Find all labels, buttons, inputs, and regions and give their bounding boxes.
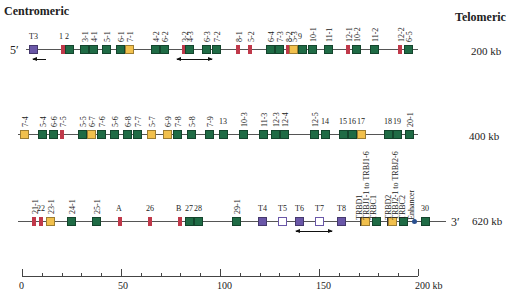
gene-functional-V	[173, 130, 182, 139]
centromeric-label: Centromeric	[4, 4, 69, 19]
arrowhead-icon	[176, 57, 181, 61]
gene-label: 24-1	[68, 199, 77, 214]
gene-label: 7-1	[126, 31, 135, 42]
gene-label: 7-8	[174, 116, 183, 127]
minor-tick	[141, 273, 142, 276]
gene-label: 30	[421, 204, 429, 213]
gene-label: 6-2	[161, 31, 170, 42]
gene-functional-V	[348, 130, 357, 139]
scale-axis	[22, 276, 418, 277]
gene-label: 17	[357, 117, 365, 126]
gene-label: 12-4	[281, 112, 290, 127]
orientation-arrow	[296, 231, 332, 232]
gene-functional-V	[405, 130, 414, 139]
gene-pseudogene	[32, 217, 36, 226]
gene-label: 6-3	[203, 31, 212, 42]
gene-label: 29-1	[233, 199, 242, 214]
minor-tick	[101, 273, 102, 276]
gene-label: 19	[393, 117, 401, 126]
gene-label: 11-2	[371, 28, 380, 42]
gene-functional-V	[123, 130, 132, 139]
gene-label: 1	[59, 32, 63, 41]
trb-segment-label: TRBC2	[398, 195, 407, 220]
minor-tick	[339, 273, 340, 276]
gene-label: 11-1	[325, 28, 334, 42]
gene-label: 7-9	[206, 116, 215, 127]
minor-tick	[378, 273, 379, 276]
gene-label: 9	[298, 32, 302, 41]
gene-pseudogene	[236, 45, 240, 54]
gene-functional-V	[239, 130, 248, 139]
gene-functional-V	[308, 45, 317, 54]
gene-label: 12-5	[311, 112, 320, 127]
gene-functional-V	[89, 45, 98, 54]
gene-label: T6	[295, 204, 304, 213]
gene-functional-V	[102, 45, 111, 54]
major-tick	[121, 269, 122, 276]
arrowhead-icon	[208, 57, 213, 61]
gene-pseudogene	[178, 217, 182, 226]
gene-functional-V	[339, 130, 348, 139]
gene-label: 7-4	[21, 116, 30, 127]
gene-label: 6-6	[50, 116, 59, 127]
arrowhead-icon	[32, 57, 37, 61]
gene-functional-V	[232, 217, 241, 226]
scale-tick-label: 0	[19, 280, 24, 291]
gene-label: T8	[337, 204, 346, 213]
gene-label: 6-7	[88, 116, 97, 127]
gene-functional-V	[298, 45, 307, 54]
gene-label: 13	[219, 117, 227, 126]
gene-trypsinogen	[337, 217, 346, 226]
gene-pseudogene	[398, 45, 402, 54]
gene-functional-V	[65, 45, 74, 54]
gene-label: 6-5	[405, 31, 414, 42]
gene-label: 5-1	[103, 31, 112, 42]
gene-trypsinogen-pseudo	[315, 217, 324, 226]
gene-label: 26	[146, 204, 154, 213]
gene-label: 12-3	[272, 112, 281, 127]
gene-orf	[357, 130, 366, 139]
gene-functional-V	[421, 217, 430, 226]
gene-pseudogene	[346, 45, 350, 54]
gene-trypsinogen	[295, 217, 304, 226]
gene-label: 14	[321, 117, 329, 126]
gene-functional-V	[271, 130, 280, 139]
minor-tick	[42, 273, 43, 276]
row1-kb-label: 200 kb	[471, 45, 501, 57]
gene-label: 25-1	[93, 199, 102, 214]
minor-tick	[299, 273, 300, 276]
gene-pseudogene	[60, 130, 64, 139]
gene-label: 16	[348, 117, 356, 126]
gene-functional-V	[275, 45, 284, 54]
gene-functional-V	[187, 130, 196, 139]
major-tick	[22, 269, 23, 276]
gene-label: 7-6	[98, 116, 107, 127]
gene-orf	[87, 130, 96, 139]
gene-label: 15	[339, 117, 347, 126]
gene-orf	[163, 130, 172, 139]
gene-label: 5-6	[111, 116, 120, 127]
gene-functional-V	[280, 130, 289, 139]
gene-label: 10-2	[353, 27, 362, 42]
gene-orf	[46, 217, 55, 226]
gene-label: 7-2	[213, 31, 222, 42]
gene-pseudogene	[118, 217, 122, 226]
gene-orf	[289, 45, 298, 54]
minor-tick	[161, 273, 162, 276]
gene-functional-V	[205, 130, 214, 139]
gene-functional-V	[38, 130, 47, 139]
gene-functional-V	[185, 217, 194, 226]
gene-label: 2	[65, 32, 69, 41]
gene-functional-V	[310, 130, 319, 139]
major-tick	[418, 269, 419, 276]
gene-label: 23-1	[47, 199, 56, 214]
minor-tick	[200, 273, 201, 276]
trb-segment-label: Enhancer	[407, 190, 416, 220]
minor-tick	[260, 273, 261, 276]
gene-functional-V	[67, 217, 76, 226]
gene-functional-V	[80, 45, 89, 54]
d-segment-mark	[360, 217, 361, 226]
gene-functional-V	[384, 130, 393, 139]
gene-label: 7-5	[59, 116, 68, 127]
gene-orf	[20, 130, 29, 139]
